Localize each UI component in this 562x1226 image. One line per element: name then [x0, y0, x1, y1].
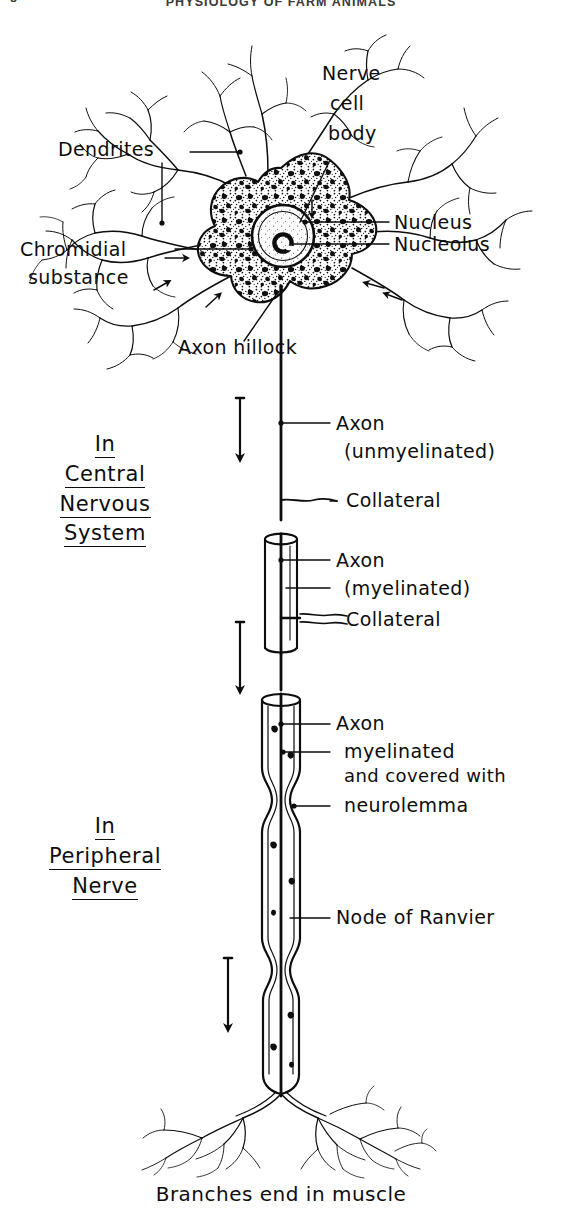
- label-node-of-ranvier: Node of Ranvier: [336, 906, 494, 928]
- label-collateral-upper: Collateral: [346, 489, 441, 511]
- label-nucleolus: Nucleolus: [394, 233, 490, 255]
- figure-caption: Branches end in muscle: [0, 1182, 562, 1206]
- label-axon-hillock: Axon hillock: [178, 336, 297, 358]
- label-dendrites: Dendrites: [58, 138, 154, 160]
- label-axon-neurolemma-line4: neurolemma: [344, 794, 468, 816]
- section-pn-word-2: Nerve: [10, 872, 200, 902]
- label-axon-neurolemma-line1: Axon: [336, 712, 385, 734]
- label-axon-unmyelinated-line2: (unmyelinated): [344, 440, 495, 462]
- section-cns-word-0: In: [10, 430, 200, 460]
- label-axon-myelinated-line1: Axon: [336, 549, 385, 571]
- neuron-diagram: [0, 0, 562, 1226]
- label-nucleus: Nucleus: [394, 211, 472, 233]
- label-nerve-cell-body-line1: Nerve: [322, 62, 381, 84]
- section-cns-word-3: System: [10, 519, 200, 549]
- label-chromidial-line1: Chromidial: [20, 238, 126, 260]
- section-pn-word-1: Peripheral: [10, 842, 200, 872]
- label-axon-unmyelinated-line1: Axon: [336, 412, 385, 434]
- label-axon-myelinated-line2: (myelinated): [344, 577, 471, 599]
- label-axon-neurolemma-line3: and covered with: [344, 766, 506, 787]
- section-peripheral-nerve: In Peripheral Nerve: [10, 812, 200, 901]
- neuron-artwork: [0, 0, 562, 1226]
- section-cns-word-1: Central: [10, 460, 200, 490]
- label-axon-neurolemma-line2: myelinated: [344, 740, 455, 762]
- figure-page: 8 PHYSIOLOGY OF FARM ANIMALS: [0, 0, 562, 1226]
- section-central-nervous-system: In Central Nervous System: [10, 430, 200, 549]
- label-chromidial-line2: substance: [28, 266, 129, 288]
- label-nerve-cell-body-line2: cell: [330, 92, 364, 114]
- section-pn-word-0: In: [10, 812, 200, 842]
- label-collateral-lower: Collateral: [346, 608, 441, 630]
- label-nerve-cell-body-line3: body: [328, 122, 377, 144]
- section-cns-word-2: Nervous: [10, 490, 200, 520]
